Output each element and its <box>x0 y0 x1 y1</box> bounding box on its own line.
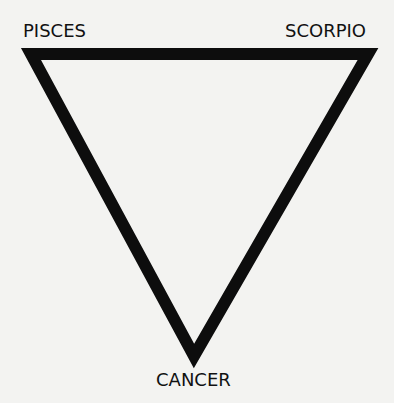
triangle-graphic <box>0 0 394 403</box>
vertex-label-pisces: PISCES <box>23 22 86 40</box>
vertex-label-scorpio: SCORPIO <box>285 22 366 40</box>
vertex-label-cancer: CANCER <box>156 371 231 389</box>
inverted-triangle <box>31 54 368 356</box>
water-trine-diagram: PISCES SCORPIO CANCER <box>0 0 394 403</box>
